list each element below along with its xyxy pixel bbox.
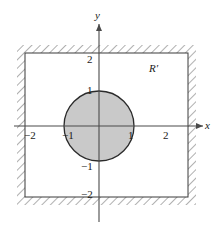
x-axis-label: x — [205, 120, 210, 131]
y-tick-label-pos1: 1 — [87, 85, 93, 96]
math-figure: x y −2 −1 1 2 2 1 −1 −2 R′ — [0, 0, 220, 231]
y-axis-label: y — [95, 10, 100, 21]
x-tick-label-neg1: −1 — [62, 130, 74, 141]
region-label-r-prime: R′ — [149, 63, 158, 74]
y-tick-label-pos2: 2 — [87, 54, 93, 65]
x-tick-label-pos1: 1 — [128, 130, 134, 141]
x-tick-label-neg2: −2 — [24, 130, 36, 141]
figure-canvas — [0, 0, 220, 231]
x-axis-arrowhead — [196, 123, 203, 129]
y-tick-label-neg2: −2 — [81, 189, 93, 200]
y-axis-arrowhead — [96, 24, 102, 31]
x-tick-label-pos2: 2 — [163, 130, 169, 141]
y-tick-label-neg1: −1 — [81, 161, 93, 172]
